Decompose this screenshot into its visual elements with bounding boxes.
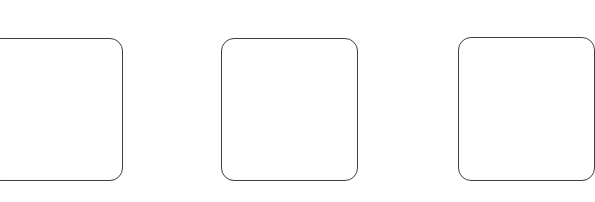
empty-card-1[interactable] bbox=[0, 38, 123, 181]
empty-card-3[interactable] bbox=[458, 37, 595, 181]
canvas bbox=[0, 0, 595, 202]
empty-card-2[interactable] bbox=[221, 38, 358, 181]
